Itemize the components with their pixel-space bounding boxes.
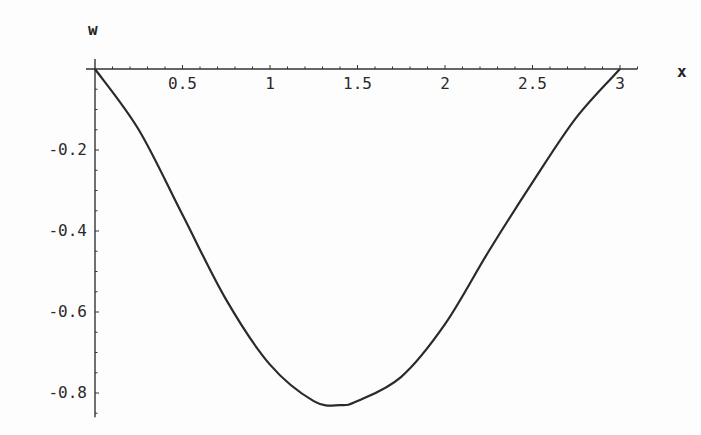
x-tick-label: 0.5	[168, 74, 197, 93]
x-tick-label: 2.5	[518, 74, 547, 93]
x-tick-label: 1	[265, 74, 275, 93]
data-curve	[95, 69, 620, 406]
y-tick-label: -0.6	[48, 302, 87, 321]
x-tick-label: 3	[615, 74, 625, 93]
y-axis-title: w	[88, 20, 98, 39]
x-tick-label: 1.5	[343, 74, 372, 93]
line-chart: 0.511.522.53 -0.2-0.4-0.6-0.8 x w	[0, 0, 701, 435]
y-tick-label: -0.4	[48, 221, 87, 240]
x-axis: 0.511.522.53	[86, 65, 638, 93]
y-axis: -0.2-0.4-0.6-0.8	[48, 59, 99, 417]
x-axis-title: x	[677, 62, 687, 81]
y-tick-label: -0.8	[48, 383, 87, 402]
y-tick-label: -0.2	[48, 140, 87, 159]
x-tick-label: 2	[440, 74, 450, 93]
